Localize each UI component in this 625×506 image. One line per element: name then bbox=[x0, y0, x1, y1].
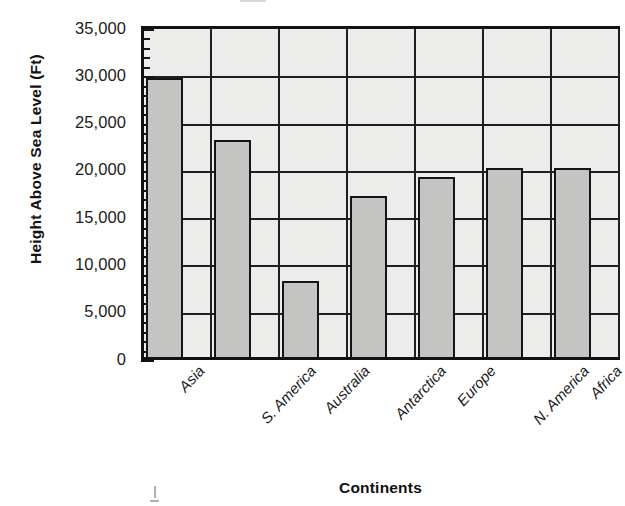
y-axis-tick-label: 35,000 bbox=[75, 18, 126, 37]
x-axis-tick-label: Australia bbox=[321, 362, 373, 416]
y-axis-minor-tick bbox=[141, 67, 150, 69]
bar-antarctica bbox=[350, 196, 387, 357]
bar-n-america bbox=[486, 168, 523, 357]
x-axis-tick-label: Asia bbox=[175, 362, 207, 395]
y-axis-minor-tick bbox=[141, 48, 150, 50]
bar-s-america bbox=[214, 140, 251, 358]
plot-area bbox=[141, 26, 620, 360]
bar-europe bbox=[418, 177, 455, 357]
x-axis-tick-labels: AsiaS. AmericaAustraliaAntarcticaEuropeN… bbox=[141, 362, 620, 472]
gridline bbox=[144, 76, 620, 78]
y-axis-major-tick bbox=[141, 29, 154, 31]
gridline bbox=[144, 124, 620, 126]
y-axis-tick-label: 5,000 bbox=[84, 302, 126, 321]
x-axis-tick-label: Africa bbox=[586, 362, 625, 402]
x-axis-tick-label: S. America bbox=[257, 362, 319, 427]
y-axis-tick-labels: 05,00010,00015,00020,00025,00030,00035,0… bbox=[12, 0, 134, 380]
y-axis-tick-label: 30,000 bbox=[75, 65, 126, 84]
y-axis-tick-label: 25,000 bbox=[75, 113, 126, 132]
scan-speck bbox=[154, 486, 156, 498]
x-axis-tick-label: Antarctica bbox=[391, 362, 449, 422]
x-axis-title: Continents bbox=[141, 479, 620, 497]
scan-speck bbox=[240, 0, 266, 2]
bar-asia bbox=[146, 78, 183, 357]
y-axis-minor-tick bbox=[141, 38, 150, 40]
y-axis-tick-label: 10,000 bbox=[75, 254, 126, 273]
y-axis-minor-tick bbox=[141, 57, 150, 59]
bar-australia bbox=[282, 281, 319, 357]
x-axis-tick-label: Europe bbox=[453, 362, 498, 409]
y-axis-tick-label: 0 bbox=[117, 349, 126, 368]
y-axis-tick-label: 15,000 bbox=[75, 207, 126, 226]
bar-africa bbox=[554, 168, 591, 357]
y-axis-tick-label: 20,000 bbox=[75, 160, 126, 179]
scan-speck bbox=[150, 500, 159, 502]
x-axis-tick-label: N. America bbox=[529, 362, 592, 427]
